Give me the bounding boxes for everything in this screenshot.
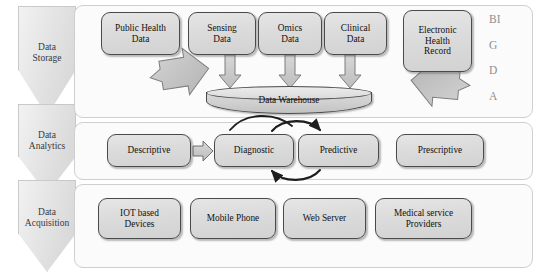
node-label-line2: Providers — [392, 219, 455, 230]
tier-label-line1: Data — [27, 130, 67, 141]
big-data-letter-2: G — [489, 40, 497, 52]
node-label-line1: Omics — [276, 23, 304, 34]
analytics-node-prescriptive[interactable]: Prescriptive — [396, 134, 484, 167]
node-label: Descriptive — [126, 145, 173, 156]
node-label-line1: Clinical — [339, 23, 372, 34]
analytics-node-diagnostic[interactable]: Diagnostic — [214, 134, 294, 167]
source-node-public-health-data[interactable]: Public Health Data — [101, 12, 180, 55]
source-node-omics-data[interactable]: Omics Data — [258, 12, 322, 55]
node-label-line1: Sensing — [205, 23, 238, 34]
tier-label-line2: Storage — [30, 53, 63, 64]
acquisition-node-medical-service-providers[interactable]: Medical service Providers — [375, 198, 472, 239]
tier-chevron-data-storage: Data Storage — [18, 6, 76, 116]
node-label-line2: Data — [113, 34, 168, 45]
node-label-line1: IOT based — [118, 208, 161, 219]
node-label-line3: Record — [416, 46, 458, 57]
node-label-line2: Data — [339, 34, 372, 45]
tier-label-line2: Acquisition — [23, 218, 71, 229]
source-node-clinical-data[interactable]: Clinical Data — [324, 12, 387, 55]
acquisition-node-web-server[interactable]: Web Server — [283, 198, 366, 239]
analytics-node-predictive[interactable]: Predictive — [298, 134, 379, 167]
analytics-node-descriptive[interactable]: Descriptive — [107, 134, 191, 167]
node-label-line2: Data — [205, 34, 238, 45]
tier-label-line1: Data — [23, 207, 71, 218]
node-label-line1: Web Server — [301, 213, 348, 224]
source-node-electronic-health-record[interactable]: Electronic Health Record — [403, 10, 472, 72]
node-label: Diagnostic — [232, 145, 276, 156]
node-label: Prescriptive — [416, 145, 464, 156]
tier-chevron-data-acquisition: Data Acquisition — [18, 180, 76, 272]
node-label-line2: Health — [416, 36, 458, 47]
source-node-sensing-data[interactable]: Sensing Data — [188, 12, 256, 55]
node-label: Predictive — [318, 145, 360, 156]
node-label-line2: Devices — [118, 219, 161, 230]
architecture-diagram: Data Storage Data Analytics Data Acquisi… — [0, 0, 540, 278]
big-data-letter-3: D — [489, 65, 497, 77]
big-data-letter-4: A — [489, 91, 497, 103]
acquisition-node-iot-based-devices[interactable]: IOT based Devices — [98, 198, 181, 239]
tier-label-line1: Data — [30, 42, 63, 53]
node-label-line1: Public Health — [113, 23, 168, 34]
big-data-watermark: BI G D A — [489, 14, 517, 102]
tier-label-line2: Analytics — [27, 141, 67, 152]
node-label-line1: Medical service — [392, 208, 455, 219]
big-data-letter-1: BI — [489, 14, 501, 26]
data-warehouse-cylinder[interactable]: Data Warehouse — [206, 86, 372, 114]
node-label-line1: Mobile Phone — [205, 213, 261, 224]
node-label-line1: Electronic — [416, 25, 458, 36]
node-label-line2: Data — [276, 34, 304, 45]
data-warehouse-label: Data Warehouse — [206, 95, 372, 105]
acquisition-node-mobile-phone[interactable]: Mobile Phone — [190, 198, 276, 239]
